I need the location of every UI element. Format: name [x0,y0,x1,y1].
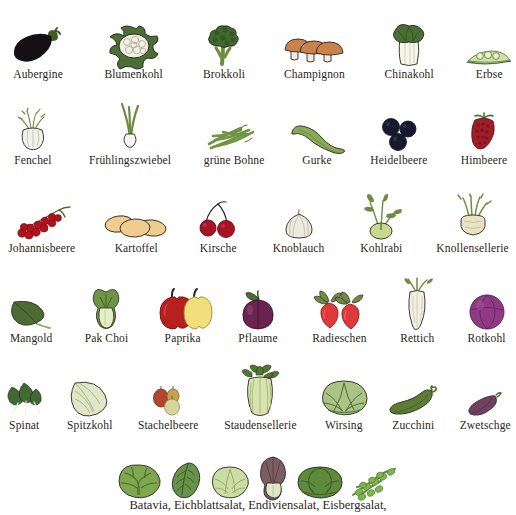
produce-item-knoblauch[interactable]: Knoblauch [264,196,334,255]
produce-label: Chinakohl [385,68,434,81]
frisee-lettuce-illustration [349,455,399,499]
produce-label: Erbse [476,68,503,81]
plum-illustration [239,286,277,330]
raspberry-illustration [467,108,501,152]
produce-item-paprika[interactable]: Paprika [151,286,215,345]
produce-item-fenchel[interactable]: Fenchel [0,108,66,167]
produce-item-erbse[interactable]: Erbse [462,22,516,81]
produce-item-stachelbeere[interactable]: Stachelbeere [131,373,205,432]
cropped-header-remnant [46,0,246,6]
produce-item-pak-choi[interactable]: Pak Choi [75,286,137,345]
produce-row-4: Mangold Pak Choi [0,286,516,345]
produce-label: Stachelbeere [138,419,199,432]
produce-row-5: Spinat Spitzkohl Stachelbeere [0,373,516,432]
produce-item-batavia[interactable] [116,455,162,501]
produce-label: Blumenkohl [104,68,162,81]
produce-item-johannisbeere[interactable]: Johannisbeere [0,196,84,255]
produce-label: Brokkoli [203,68,245,81]
iceberg-lettuce-illustration [296,455,344,499]
produce-item-wirsing[interactable]: Wirsing [315,373,372,432]
aubergine-illustration [10,22,66,66]
fennel-illustration [13,108,53,152]
produce-item-eisbergsalat[interactable] [296,455,344,501]
damson-illustration [468,373,502,417]
produce-row-6-lettuces [0,455,516,501]
produce-label: Knoblauch [273,242,325,255]
produce-item-zwetschge[interactable]: Zwetschge [455,373,516,432]
cauliflower-illustration [105,22,163,66]
produce-label: Rotkohl [468,332,506,345]
potato-illustration [104,196,168,240]
produce-label: Gurke [302,154,332,167]
produce-label: Himbeere [461,154,508,167]
lettuce-group-caption: Batavia, Eichblattsalat, Endiviensalat, … [0,498,516,513]
blueberry-illustration [378,108,420,152]
kohlrabi-illustration [359,196,403,240]
produce-item-zucchini[interactable]: Zucchini [385,373,442,432]
celeriac-illustration [451,196,495,240]
produce-item-champignon[interactable]: Champignon [273,22,356,81]
produce-label: Champignon [284,68,345,81]
produce-label: Heidelbeere [370,154,427,167]
produce-row-1: Aubergine Blumenkohl [0,22,516,81]
produce-item-endiviensalat[interactable] [210,455,250,501]
spring-onion-illustration [112,108,148,152]
produce-item-radicchio[interactable] [254,455,292,501]
produce-label: grüne Bohne [204,154,265,167]
gooseberry-illustration [150,373,186,417]
produce-label: Paprika [165,332,201,345]
produce-label: Kirsche [200,242,237,255]
batavia-lettuce-illustration [117,455,161,499]
produce-item-staudensellerie[interactable]: Staudensellerie [218,373,302,432]
produce-label: Kohlrabi [360,242,402,255]
illustration-sheet: Aubergine Blumenkohl [0,0,516,515]
produce-item-rotkohl[interactable]: Rotkohl [457,286,516,345]
produce-label: Spinat [9,419,39,432]
produce-item-brokkoli[interactable]: Brokkoli [191,22,257,81]
produce-item-knollensellerie[interactable]: Knollensellerie [429,196,516,255]
produce-label: Knollensellerie [436,242,509,255]
produce-label: Kartoffel [115,242,158,255]
produce-item-kartoffel[interactable]: Kartoffel [100,196,174,255]
garlic-illustration [282,196,316,240]
produce-item-kohlrabi[interactable]: Kohlrabi [350,196,413,255]
produce-item-rettich[interactable]: Rettich [390,286,444,345]
produce-label: Fenchel [14,154,51,167]
produce-label: Staudensellerie [224,419,297,432]
mushroom-illustration [283,22,345,66]
celery-illustration [240,373,280,417]
produce-item-radieschen[interactable]: Radieschen [301,286,377,345]
produce-item-mangold[interactable]: Mangold [0,286,62,345]
produce-label: Pak Choi [85,332,129,345]
produce-label: Frühlingszwiebel [89,154,171,167]
green-bean-illustration [205,108,263,152]
produce-item-fruehlingszwiebel[interactable]: Frühlingszwiebel [80,108,180,167]
produce-item-aubergine[interactable]: Aubergine [0,22,76,81]
produce-item-pflaume[interactable]: Pflaume [228,286,289,345]
radicchio-illustration [257,455,289,499]
produce-item-himbeere[interactable]: Himbeere [452,108,516,167]
produce-row-2: Fenchel Frühlingszwiebel [0,108,516,167]
oakleaf-lettuce-illustration [168,455,204,499]
produce-item-heidelbeere[interactable]: Heidelbeere [360,108,438,167]
pak-choi-illustration [90,286,122,330]
zucchini-illustration [388,373,438,417]
pea-pod-illustration [466,22,512,66]
pepper-illustration [156,286,210,330]
produce-item-eichblattsalat[interactable] [166,455,206,501]
produce-item-spinat[interactable]: Spinat [0,373,48,432]
produce-item-blumenkohl[interactable]: Blumenkohl [92,22,175,81]
broccoli-illustration [206,22,242,66]
produce-label: Pflaume [238,332,277,345]
produce-label: Aubergine [13,68,63,81]
produce-item-chinakohl[interactable]: Chinakohl [372,22,446,81]
produce-item-spitzkohl[interactable]: Spitzkohl [61,373,118,432]
produce-item-gurke[interactable]: Gurke [288,108,346,167]
radish-illustration [312,286,366,330]
pointed-cabbage-illustration [69,373,111,417]
produce-item-gruene-bohne[interactable]: grüne Bohne [194,108,274,167]
savoy-cabbage-illustration [320,373,368,417]
produce-item-friseesalat[interactable] [348,455,400,501]
red-cabbage-illustration [468,286,506,330]
produce-item-kirsche[interactable]: Kirsche [189,196,247,255]
